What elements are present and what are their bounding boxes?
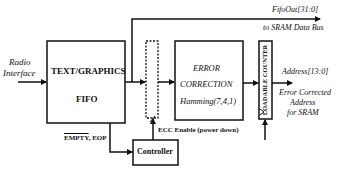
fifo-subtitle: FIFO	[76, 95, 98, 104]
address-label: Address[13:0]	[282, 68, 328, 76]
address-desc-3: for SRAM	[287, 109, 319, 117]
ecc-title-1: ERROR	[193, 64, 220, 73]
interface-label: Interface	[3, 69, 35, 78]
empty-eop-label: EMPTY, EOP	[64, 135, 107, 142]
ecc-power-gate	[146, 41, 158, 118]
fifo-out-dest-label: to SRAM Data Bus	[263, 24, 324, 32]
ecc-title-2: CORRECTION	[180, 80, 232, 89]
fifo-title: TEXT/GRAPHICS	[51, 67, 126, 76]
controller-label: Controller	[137, 148, 173, 156]
fifo-out-label: FifoOut[31:0]	[272, 6, 318, 14]
radio-label: Radio	[9, 58, 31, 67]
counter-label: LOADABLE COUNTER	[262, 45, 269, 116]
eop-signal: , EOP	[89, 134, 107, 142]
empty-eop-line	[110, 123, 132, 152]
address-desc-1: Error Corrected	[279, 89, 331, 97]
ecc-code: Hamming(7,4,1)	[180, 97, 236, 106]
empty-signal: EMPTY	[64, 134, 89, 142]
fifo-block	[47, 41, 125, 123]
ecc-enable-label: ECC Enable (power down)	[158, 127, 239, 134]
address-desc-2: Address	[290, 99, 315, 107]
